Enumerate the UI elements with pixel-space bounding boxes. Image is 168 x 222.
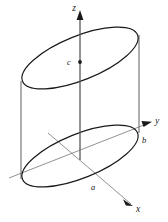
y-intercept-label: b (142, 135, 146, 145)
axis-lines-group (9, 18, 149, 204)
cylinder-diagram-svg: z y x c b a (0, 0, 168, 222)
z-axis-arrowhead (77, 10, 84, 20)
figure-container: z y x c b a (0, 0, 168, 222)
y-axis-label: y (154, 116, 160, 126)
y-axis-line (9, 123, 149, 178)
center-point-marker (78, 60, 82, 64)
center-point-label: c (67, 57, 71, 67)
x-axis-arrowhead (123, 199, 133, 206)
x-axis-label: x (135, 204, 141, 214)
z-axis-label: z (71, 3, 76, 13)
x-intercept-label: a (91, 182, 95, 192)
x-axis-line (48, 133, 131, 204)
y-axis-arrowhead (141, 121, 152, 127)
